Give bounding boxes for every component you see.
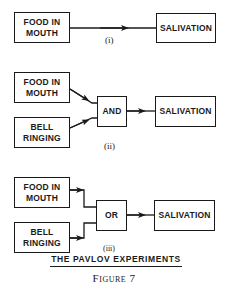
food-in-mouth-label: FOOD IN MOUTH [24,182,61,204]
salivation-box-ii: SALIVATION [155,96,216,127]
salivation-box-i: SALIVATION [156,13,216,43]
salivation-label: SALIVATION [158,210,210,221]
or-gate-label: OR [105,210,118,221]
and-gate-label: AND [102,106,121,117]
panel-label-i: (i) [105,35,114,45]
bell-ringing-box-iii: BELL RINGING [14,222,70,253]
food-in-mouth-box-iii: FOOD IN MOUTH [14,177,70,208]
arrow-bell-to-or [70,223,96,238]
bell-ringing-label: BELL RINGING [23,227,61,249]
bell-ringing-box-ii: BELL RINGING [14,117,70,148]
bell-ringing-label: BELL RINGING [23,122,61,144]
panel-label-ii: (ii) [104,141,115,151]
salivation-label: SALIVATION [159,106,211,117]
food-in-mouth-box-ii: FOOD IN MOUTH [14,72,70,103]
food-in-mouth-label: FOOD IN MOUTH [24,17,61,39]
diagram-title: THE PAVLOV EXPERIMENTS [50,254,182,267]
food-in-mouth-label: FOOD IN MOUTH [24,77,61,99]
salivation-label: SALIVATION [160,23,212,34]
salivation-box-iii: SALIVATION [154,200,215,231]
food-in-mouth-box-i: FOOD IN MOUTH [14,12,70,43]
panel-label-iii: (iii) [103,244,115,253]
arrow-food-to-or [70,190,96,207]
figure-caption: Figure 7 [0,272,228,284]
or-gate-box: OR [96,200,127,231]
and-gate-box: AND [97,96,127,127]
